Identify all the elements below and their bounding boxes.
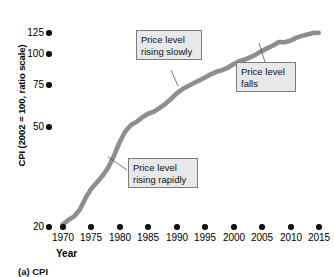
- x-tick-dot-2005: [259, 224, 265, 230]
- x-tick-label-2005: 2005: [247, 232, 277, 243]
- x-tick-dot-1990: [174, 224, 180, 230]
- x-tick-label-1975: 1975: [76, 232, 106, 243]
- x-tick-label-1970: 1970: [48, 232, 78, 243]
- x-tick-dot-1995: [202, 224, 208, 230]
- x-tick-label-1995: 1995: [190, 232, 220, 243]
- x-tick-label-2000: 2000: [219, 232, 249, 243]
- x-tick-dot-1970: [60, 224, 66, 230]
- x-tick-dot-2000: [231, 224, 237, 230]
- x-tick-label-2010: 2010: [276, 232, 306, 243]
- x-tick-label-2015: 2015: [304, 232, 334, 243]
- figure-caption: (a) CPI: [18, 266, 48, 277]
- leader-line-rising-slowly: [171, 70, 178, 86]
- callout-rising-slowly: Price level rising slowly: [136, 30, 202, 60]
- x-tick-dot-2010: [288, 224, 294, 230]
- x-tick-label-1985: 1985: [133, 232, 163, 243]
- x-tick-dot-1980: [117, 224, 123, 230]
- x-tick-label-1980: 1980: [105, 232, 135, 243]
- x-tick-dot-1985: [145, 224, 151, 230]
- x-tick-dot-2015: [316, 224, 322, 230]
- x-axis-title: Year: [56, 248, 77, 259]
- callout-rising-rapidly: Price level rising rapidly: [128, 158, 198, 188]
- callout-price-falls: Price level falls: [236, 62, 296, 92]
- x-tick-label-1990: 1990: [162, 232, 192, 243]
- x-tick-dot-1975: [88, 224, 94, 230]
